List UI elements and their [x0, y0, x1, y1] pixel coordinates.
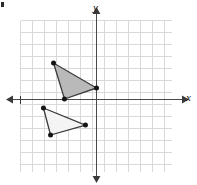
light-triangle-shape	[43, 108, 85, 135]
x-axis-arrow-left	[6, 96, 13, 104]
y-axis-label: y	[93, 2, 98, 13]
shaded-triangle	[51, 61, 99, 102]
coordinate-plane-svg	[0, 0, 197, 185]
y-axis-arrow-down	[93, 176, 101, 183]
vertex-marker	[62, 97, 67, 102]
coordinate-plane-figure: y x	[0, 0, 197, 185]
x-axis-label: x	[186, 92, 191, 103]
vertex-marker	[51, 61, 56, 66]
vertex-marker	[41, 106, 46, 111]
vertex-marker	[48, 133, 53, 138]
vertex-marker	[83, 123, 88, 128]
vertex-marker	[94, 85, 99, 90]
axes	[6, 7, 189, 183]
